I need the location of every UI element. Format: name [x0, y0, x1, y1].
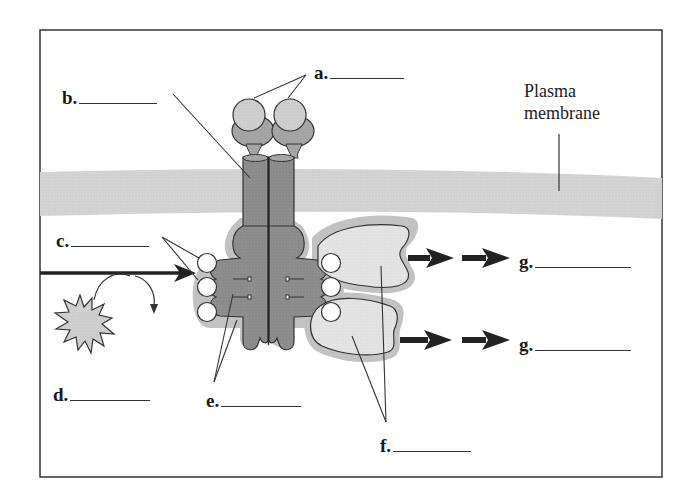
plasma-membrane-label-line2: membrane	[524, 102, 600, 124]
label-g-lower-blank[interactable]	[535, 350, 631, 351]
plasma-membrane-label: Plasma membrane	[524, 80, 600, 124]
label-c-blank[interactable]	[71, 246, 149, 247]
label-b: b.	[62, 88, 157, 107]
signal-molecule-right	[274, 99, 306, 131]
label-b-letter: b.	[62, 87, 77, 108]
label-f-letter: f.	[380, 435, 391, 456]
label-c: c.	[56, 231, 149, 250]
label-b-blank[interactable]	[79, 103, 157, 104]
plasma-membrane-label-line1: Plasma	[524, 80, 600, 102]
label-e: e.	[206, 391, 301, 410]
label-f: f.	[380, 436, 471, 455]
label-d-blank[interactable]	[70, 400, 150, 401]
label-d: d.	[53, 385, 150, 404]
label-g-upper-letter: g.	[519, 251, 533, 272]
label-c-letter: c.	[56, 230, 69, 251]
signal-molecule-left	[233, 99, 265, 131]
label-e-letter: e.	[206, 390, 219, 411]
label-a: a.	[314, 63, 404, 82]
label-e-blank[interactable]	[221, 406, 301, 407]
label-d-letter: d.	[53, 384, 68, 405]
label-g-upper-blank[interactable]	[535, 267, 631, 268]
label-g-lower-letter: g.	[519, 334, 533, 355]
plasma-membrane	[40, 169, 662, 219]
label-g-lower: g.	[519, 335, 631, 354]
label-a-blank[interactable]	[330, 78, 404, 79]
label-f-blank[interactable]	[393, 451, 471, 452]
label-g-upper: g.	[519, 252, 631, 271]
label-a-letter: a.	[314, 62, 328, 83]
